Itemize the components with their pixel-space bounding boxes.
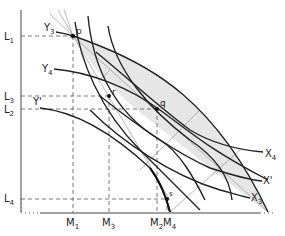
label-M1: M1 xyxy=(66,217,79,231)
label-s: s xyxy=(169,190,173,198)
label-r: r xyxy=(112,87,116,97)
label-L4: L4 xyxy=(4,193,15,207)
point-q xyxy=(155,107,159,111)
label-L1: L1 xyxy=(4,31,14,45)
point-p xyxy=(71,34,75,38)
label-M4: M4 xyxy=(163,217,177,231)
label-Xprime: X' xyxy=(263,175,273,186)
edgeworth-diagram: p r q s L1 L3 L2 L4 M1 M3 M2 M4 Y3 Y4 Y'… xyxy=(0,0,285,236)
label-q: q xyxy=(160,98,166,108)
label-p: p xyxy=(76,26,82,36)
label-X4: X4 xyxy=(265,148,277,162)
label-Yprime: Y' xyxy=(32,96,42,107)
diagram-canvas: p r q s L1 L3 L2 L4 M1 M3 M2 M4 Y3 Y4 Y'… xyxy=(0,0,285,236)
label-L2: L2 xyxy=(4,104,14,118)
label-M3: M3 xyxy=(102,217,115,231)
curve-s-segment xyxy=(150,168,170,212)
label-Y3: Y3 xyxy=(43,22,55,36)
label-L3: L3 xyxy=(4,91,14,105)
point-r xyxy=(107,94,111,98)
label-M2: M2 xyxy=(150,217,163,231)
label-Y4: Y4 xyxy=(41,63,53,77)
